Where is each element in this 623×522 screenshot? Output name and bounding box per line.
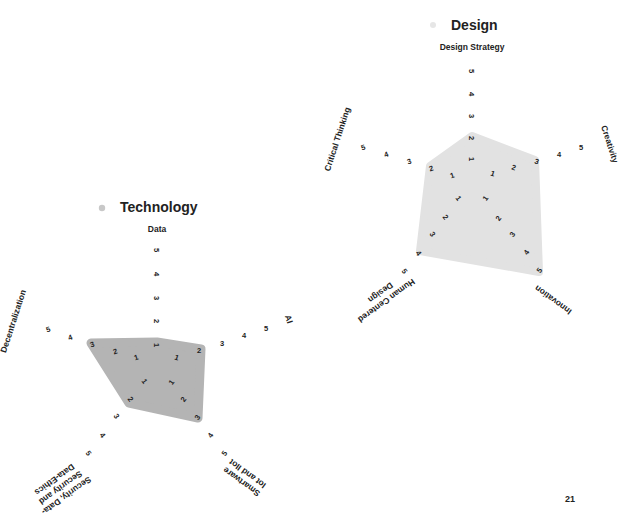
- svg-text:1: 1: [467, 157, 476, 161]
- technology-axis-label-decentralization: Decentralization: [0, 288, 28, 354]
- svg-text:2: 2: [467, 136, 476, 140]
- svg-text:3: 3: [220, 339, 224, 348]
- svg-text:4: 4: [98, 431, 108, 440]
- technology-axis-label-smartware: Smartware Iot and IIot: [221, 457, 268, 499]
- svg-text:3: 3: [467, 114, 476, 118]
- svg-text:5: 5: [264, 324, 268, 333]
- svg-text:4: 4: [242, 331, 247, 340]
- technology-radar-chart: Technology Data 1 2 3 4 5 1 2 3 4 5 1 2 …: [0, 199, 295, 517]
- design-legend-marker: [430, 22, 436, 28]
- svg-text:5: 5: [220, 449, 230, 458]
- svg-text:4: 4: [467, 92, 476, 97]
- svg-text:5: 5: [84, 449, 94, 458]
- svg-text:5: 5: [579, 143, 583, 152]
- svg-text:3: 3: [406, 157, 413, 167]
- technology-ticks-data: 1 2 3 4 5: [152, 248, 161, 347]
- svg-text:5: 5: [152, 248, 161, 252]
- svg-text:5: 5: [467, 69, 476, 73]
- svg-text:4: 4: [383, 149, 391, 159]
- design-axis-label-critical-thinking: Critical Thinking: [322, 106, 352, 172]
- svg-text:5: 5: [360, 143, 367, 153]
- svg-text:5: 5: [45, 325, 52, 335]
- svg-text:1: 1: [152, 343, 161, 347]
- design-chart-title: Design: [451, 17, 498, 33]
- svg-text:2: 2: [197, 346, 201, 355]
- svg-text:4: 4: [67, 332, 75, 342]
- design-axis-label-creativity: Creativity: [599, 124, 621, 164]
- radar-charts-canvas: Design Design Strategy 1 2 3 4 5 1 2 3 4…: [0, 0, 623, 522]
- technology-chart-title: Technology: [120, 199, 198, 215]
- technology-axis-label-security: Security, Data- Security and Data-Ethics: [28, 458, 93, 517]
- technology-axis-label-data: Data: [148, 224, 167, 234]
- design-axis-label-design-strategy: Design Strategy: [440, 42, 505, 52]
- svg-text:4: 4: [152, 272, 161, 277]
- svg-text:4: 4: [557, 150, 562, 159]
- svg-text:4: 4: [206, 430, 216, 439]
- design-axis-label-human-centered-design: Human Centered Design: [350, 269, 417, 325]
- design-axis-label-innovation: Innovation: [533, 283, 574, 316]
- design-radar-chart: Design Design Strategy 1 2 3 4 5 1 2 3 4…: [322, 17, 621, 325]
- svg-text:2: 2: [152, 319, 161, 323]
- svg-text:3: 3: [112, 412, 122, 421]
- technology-axis-label-ai: AI: [283, 313, 295, 324]
- page-number: 21: [565, 494, 575, 504]
- svg-text:3: 3: [152, 296, 161, 300]
- technology-legend-marker: [99, 205, 105, 211]
- svg-text:5: 5: [400, 267, 410, 276]
